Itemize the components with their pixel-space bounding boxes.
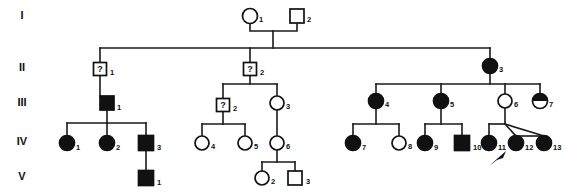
- symbol-square-male: [139, 136, 154, 151]
- individual-iv-12[interactable]: 12: [509, 136, 534, 153]
- symbol-circle-female: [270, 136, 284, 150]
- individual-number-label: 3: [499, 65, 503, 74]
- unknown-status-question-mark: ?: [247, 64, 253, 74]
- individual-number-label: 13: [553, 143, 561, 152]
- individual-number-label: 12: [525, 143, 533, 152]
- proband-indicator-layer: [489, 151, 506, 166]
- individual-number-label: 7: [549, 100, 553, 109]
- symbol-circle-female: [369, 94, 384, 109]
- individual-iv-11[interactable]: 11: [482, 136, 506, 153]
- individual-number-label: 3: [286, 102, 290, 111]
- symbol-circle-female: [270, 96, 284, 110]
- individual-number-label: 6: [514, 100, 518, 109]
- individual-iii-4[interactable]: 4: [369, 94, 391, 110]
- symbol-circle-female: [418, 136, 433, 151]
- symbol-circle-female: [498, 94, 512, 108]
- individual-number-label: 3: [157, 143, 161, 152]
- individual-v-2[interactable]: 2: [255, 171, 275, 186]
- symbol-circle-female: [392, 136, 406, 150]
- generation-label-2: II: [19, 61, 25, 73]
- individual-i-2[interactable]: 2: [290, 9, 311, 24]
- pedigree-canvas: 12?1?231?23456712345678910111213123 IIII…: [0, 0, 566, 196]
- symbol-circle-female: [238, 136, 252, 150]
- symbol-square-male: [100, 96, 114, 110]
- individual-number-label: 1: [110, 68, 114, 77]
- individual-iv-6[interactable]: 6: [270, 136, 290, 151]
- individual-number-label: 10: [473, 143, 481, 152]
- individual-number-label: 1: [117, 103, 121, 112]
- symbol-circle-female: [243, 9, 258, 24]
- individual-iii-7[interactable]: 7: [533, 94, 554, 110]
- individual-number-label: 4: [385, 100, 390, 109]
- individual-iii-1[interactable]: 1: [100, 96, 121, 112]
- symbol-circle-female: [509, 136, 524, 151]
- symbol-circle-female: [482, 136, 497, 151]
- individual-number-label: 5: [450, 100, 454, 109]
- individual-number-label: 2: [271, 177, 275, 186]
- individual-iv-10[interactable]: 10: [455, 136, 482, 153]
- individual-ii-1[interactable]: ?1: [94, 63, 115, 78]
- individual-iii-5[interactable]: 5: [434, 94, 455, 110]
- unknown-status-question-mark: ?: [97, 64, 103, 74]
- symbol-circle-female: [346, 136, 361, 151]
- individual-number-label: 9: [434, 143, 438, 152]
- symbol-circle-female: [60, 136, 75, 151]
- symbol-square-male: [139, 171, 154, 186]
- individual-v-3[interactable]: 3: [288, 171, 310, 186]
- symbol-circle-female: [483, 59, 498, 74]
- individual-v-1[interactable]: 1: [139, 171, 162, 188]
- generation-label-5: V: [18, 170, 26, 182]
- unknown-status-question-mark: ?: [220, 100, 226, 110]
- individual-iv-8[interactable]: 8: [392, 136, 412, 151]
- individual-ii-3[interactable]: 3: [483, 59, 504, 75]
- generation-label-3: III: [17, 96, 26, 108]
- symbol-circle-female: [537, 136, 552, 151]
- individual-iii-3[interactable]: 3: [270, 96, 290, 111]
- generation-label-1: I: [20, 9, 23, 21]
- twin-connector-layer: [505, 124, 544, 136]
- individual-iii-2[interactable]: ?2: [217, 99, 238, 114]
- individual-number-label: 3: [306, 177, 310, 186]
- pedigree-chart: 12?1?231?23456712345678910111213123 IIII…: [0, 0, 566, 196]
- symbol-circle-female: [434, 94, 449, 109]
- individual-i-1[interactable]: 1: [243, 9, 264, 25]
- individual-number-label: 2: [307, 15, 311, 24]
- individual-iv-5[interactable]: 5: [238, 136, 258, 151]
- symbol-circle-female: [100, 136, 115, 151]
- individual-iv-2[interactable]: 2: [100, 136, 121, 153]
- individual-iv-4[interactable]: 4: [195, 136, 216, 151]
- individual-number-label: 5: [254, 142, 258, 151]
- individual-number-label: 8: [408, 142, 412, 151]
- generation-label-4: IV: [17, 135, 28, 147]
- individual-number-label: 2: [233, 104, 237, 113]
- individual-ii-2[interactable]: ?2: [244, 63, 265, 78]
- individual-number-label: 4: [211, 142, 216, 151]
- individual-iii-6[interactable]: 6: [498, 94, 518, 109]
- symbol-square-male: [290, 9, 304, 23]
- mating-I1-I2: [250, 24, 297, 31]
- individual-number-label: 7: [362, 143, 366, 152]
- individual-number-label: 6: [286, 142, 290, 151]
- symbol-circle-female: [255, 171, 269, 185]
- individual-number-label: 1: [259, 15, 263, 24]
- individual-iv-3[interactable]: 3: [139, 136, 162, 153]
- proband-arrow: [489, 151, 506, 166]
- individual-number-label: 2: [260, 68, 264, 77]
- individual-iv-9[interactable]: 9: [418, 136, 439, 153]
- symbol-square-male: [288, 171, 302, 185]
- individual-iv-1[interactable]: 1: [60, 136, 81, 153]
- individual-number-label: 11: [498, 143, 506, 152]
- individual-iv-7[interactable]: 7: [346, 136, 367, 153]
- generation-label-layer: IIIIIIIVV: [17, 9, 28, 182]
- individual-symbol-layer: 12?1?231?23456712345678910111213123: [60, 9, 562, 188]
- individual-number-label: 1: [76, 143, 80, 152]
- symbol-square-male: [455, 136, 470, 151]
- individual-number-label: 1: [157, 178, 161, 187]
- individual-iv-13[interactable]: 13: [537, 136, 562, 153]
- symbol-circle-female: [195, 136, 209, 150]
- individual-number-label: 2: [116, 143, 120, 152]
